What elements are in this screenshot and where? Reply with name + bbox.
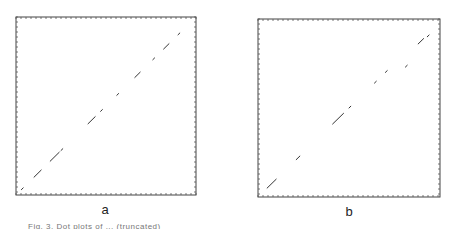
match-segment: [50, 152, 59, 161]
plot-panel-a: [15, 16, 197, 196]
match-segment: [88, 117, 95, 124]
match-segment: [34, 170, 41, 177]
match-segment: [101, 110, 103, 112]
dot-plot-a: [15, 16, 197, 196]
match-segment: [21, 188, 23, 190]
match-segment: [374, 81, 376, 83]
match-segment: [418, 39, 423, 44]
match-segment: [296, 156, 300, 160]
match-segment: [153, 58, 155, 60]
match-segment: [333, 113, 344, 124]
match-segment: [164, 44, 169, 49]
match-segment: [61, 149, 63, 151]
match-segment: [349, 106, 351, 108]
panel-label-b: b: [339, 204, 359, 219]
panel-label-a: a: [95, 202, 115, 217]
match-segment: [135, 72, 140, 77]
match-segment: [427, 35, 429, 37]
match-segment: [267, 179, 276, 188]
match-segment: [178, 33, 180, 35]
figure-caption: Fig. 3. Dot plots of ... (truncated): [28, 222, 161, 229]
match-segment: [117, 94, 119, 96]
match-segment: [385, 71, 387, 73]
plot-panel-b: [257, 18, 441, 198]
match-segment: [405, 65, 407, 67]
dot-plot-b: [257, 18, 441, 198]
